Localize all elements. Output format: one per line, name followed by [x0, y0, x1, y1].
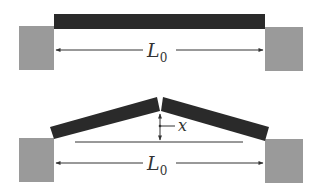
- length-label: L0: [146, 152, 167, 178]
- left-support: [19, 26, 54, 70]
- right-support: [265, 139, 303, 183]
- left-support: [19, 138, 54, 182]
- straight-beam: [54, 14, 265, 29]
- top-figure: L0: [19, 14, 303, 71]
- bottom-figure: x L0: [19, 97, 303, 183]
- length-label: L0: [146, 39, 167, 65]
- displacement-dot: [159, 125, 162, 128]
- buckled-beam-left-half: [50, 97, 160, 139]
- displacement-label: x: [178, 116, 187, 135]
- beam-buckling-diagram: L0 x L0: [0, 0, 321, 194]
- right-support: [265, 27, 303, 71]
